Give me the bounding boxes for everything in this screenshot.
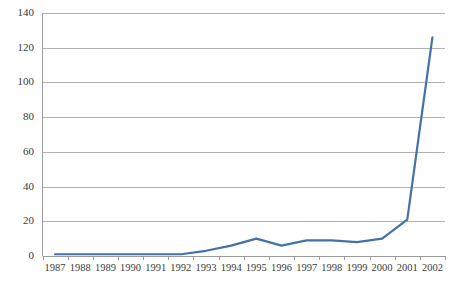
line-chart: 020406080100120140 198719881989199019911… [0, 0, 456, 283]
y-axis-tick-label: 140 [4, 7, 34, 18]
x-axis-tick-label: 1996 [268, 262, 294, 273]
y-axis-tick-label: 60 [4, 146, 34, 157]
y-axis-tick-label: 20 [4, 215, 34, 226]
y-axis-tick-label: 80 [4, 111, 34, 122]
y-axis-tick-label: 40 [4, 181, 34, 192]
chart-plot-area [0, 0, 456, 283]
x-axis-tick-label: 2001 [394, 262, 420, 273]
x-axis-tick-label: 1998 [319, 262, 345, 273]
gridlines-group [43, 14, 446, 257]
y-axis-tick-label: 0 [4, 250, 34, 261]
x-axis-tick-label: 1994 [218, 262, 244, 273]
x-axis-tick-label: 1992 [168, 262, 194, 273]
x-axis-tick-label: 1995 [243, 262, 269, 273]
x-axis-tick-label: 1989 [92, 262, 118, 273]
x-axis-tick-label: 1987 [42, 262, 68, 273]
x-axis-tick-label: 1990 [118, 262, 144, 273]
x-axis-tick-label: 1988 [67, 262, 93, 273]
x-axis-tick-label: 1991 [143, 262, 169, 273]
x-axis-tick-label: 1999 [344, 262, 370, 273]
x-axis-tick-label: 2002 [419, 262, 445, 273]
x-axis-tick-label: 2000 [369, 262, 395, 273]
y-axis-tick-label: 120 [4, 42, 34, 53]
x-axis-tick-label: 1997 [294, 262, 320, 273]
y-axis-tick-label: 100 [4, 76, 34, 87]
x-axis-tick-label: 1993 [193, 262, 219, 273]
